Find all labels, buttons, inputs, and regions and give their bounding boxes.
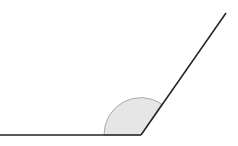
angle-arc <box>104 98 162 135</box>
angle-diagram <box>0 0 238 146</box>
right-ray <box>141 13 226 135</box>
